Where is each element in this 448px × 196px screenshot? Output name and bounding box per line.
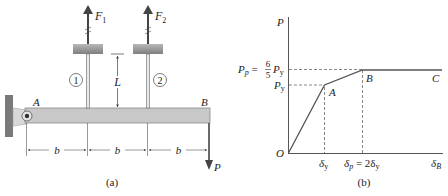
rod-2-number: 2 xyxy=(158,75,163,86)
rod-1 xyxy=(87,54,90,108)
label-point-c-chart: C xyxy=(432,72,440,84)
label-point-a: A xyxy=(32,96,40,108)
caption-a: (a) xyxy=(106,176,119,189)
panel-b: P δB O A B C Pp = 6 5 Py Py δy δp = 2δy … xyxy=(237,16,443,189)
rod-1-grip-block xyxy=(73,44,103,54)
label-delta-y: δy xyxy=(319,157,328,171)
dashed-guides xyxy=(289,70,363,154)
rod-2-grip-block xyxy=(133,44,163,54)
rod-1-number: 1 xyxy=(74,75,79,86)
panel-a: F1 F2 1 2 L A B xyxy=(5,5,221,189)
origin-label: O xyxy=(276,147,284,159)
svg-text:6: 6 xyxy=(266,59,271,69)
force-arrow-f1 xyxy=(83,5,93,44)
label-f1: F1 xyxy=(94,9,106,25)
wall-support xyxy=(5,95,13,137)
label-spacing-2: b xyxy=(115,144,121,156)
figure: F1 F2 1 2 L A B xyxy=(0,0,448,196)
label-delta-p: δp = 2δy xyxy=(344,157,380,171)
label-length: L xyxy=(113,75,121,89)
label-point-b-chart: B xyxy=(366,72,373,84)
force-arrow-f2 xyxy=(143,5,153,44)
y-axis-label: P xyxy=(276,16,284,28)
rod-2 xyxy=(147,54,150,108)
caption-b: (b) xyxy=(358,176,371,189)
pin-center-icon xyxy=(25,114,29,118)
label-pp: Pp = 6 5 Py xyxy=(237,59,284,80)
label-spacing-1: b xyxy=(54,144,60,156)
label-point-a-chart: A xyxy=(328,86,336,98)
label-f2: F2 xyxy=(154,9,166,25)
label-load-p: P xyxy=(213,161,221,173)
load-arrow-p xyxy=(205,123,213,170)
svg-text:5: 5 xyxy=(266,70,271,80)
label-py: Py xyxy=(273,79,285,93)
label-point-b: B xyxy=(201,96,208,108)
svg-text:Pp =: Pp = xyxy=(237,63,258,77)
beam xyxy=(25,108,210,123)
x-axis-label: δB xyxy=(431,157,441,171)
label-spacing-3: b xyxy=(176,144,182,156)
svg-text:Py: Py xyxy=(272,63,284,77)
